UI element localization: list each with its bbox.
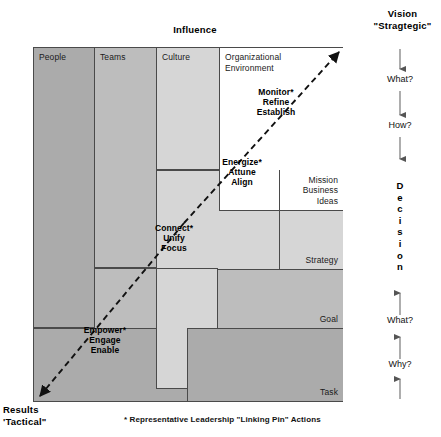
decision-letter-i1: i bbox=[370, 215, 430, 227]
row-label-goal: Goal bbox=[320, 314, 338, 325]
column-label-org-environment: Organizational Environment bbox=[225, 52, 281, 73]
linking-pin-monitor: Monitor* Refine Establish bbox=[240, 87, 312, 117]
diagram-canvas: Influence Vision "Stragtegic" Results 'T… bbox=[0, 0, 441, 437]
footnote-text: * Representative Leadership "Linking Pin… bbox=[124, 415, 424, 424]
row-label-task: Task bbox=[320, 387, 338, 398]
vision-caption: Vision "Stragtegic" bbox=[364, 8, 441, 31]
leadership-matrix: People Teams Culture Organizational Envi… bbox=[33, 47, 341, 400]
row-mission: Mission Business Ideas bbox=[279, 170, 343, 211]
decision-letter-d: D bbox=[370, 180, 430, 192]
vision-subtitle: "Stragtegic" bbox=[364, 20, 441, 31]
decision-letter-s: s bbox=[370, 226, 430, 238]
row-label-mission: Mission Business Ideas bbox=[280, 175, 338, 207]
linking-pin-empower: Empower* Engage Enable bbox=[69, 325, 141, 355]
decision-letter-n: n bbox=[370, 261, 430, 273]
influence-axis-label: Influence bbox=[160, 24, 230, 35]
rail-label-what-top: What? bbox=[370, 74, 430, 84]
column-label-people: People bbox=[39, 52, 66, 63]
row-goal: Goal bbox=[217, 269, 343, 329]
decision-letter-c: c bbox=[370, 203, 430, 215]
column-label-teams: Teams bbox=[100, 52, 126, 63]
row-label-strategy: Strategy bbox=[306, 255, 338, 266]
row-task: Task bbox=[187, 328, 343, 402]
decision-letter-o: o bbox=[370, 250, 430, 262]
results-subtitle: 'Tactical" bbox=[3, 416, 93, 427]
column-label-culture: Culture bbox=[162, 52, 190, 63]
rail-label-how: How? bbox=[370, 120, 430, 130]
linking-pin-connect: Connect* Unify Focus bbox=[138, 223, 210, 253]
results-caption: Results 'Tactical" bbox=[3, 404, 93, 427]
decision-rail: What? How? D e c i s i o n What? Why? bbox=[360, 47, 441, 400]
vision-title: Vision bbox=[364, 8, 441, 19]
rail-label-what-bottom: What? bbox=[370, 315, 430, 325]
row-strategy: Strategy bbox=[279, 210, 343, 270]
cell-people-upper: People bbox=[33, 47, 95, 328]
results-title: Results bbox=[3, 404, 93, 415]
decision-letter-i2: i bbox=[370, 238, 430, 250]
decision-vertical-word: D e c i s i o n bbox=[370, 180, 430, 273]
rail-label-why: Why? bbox=[370, 359, 430, 369]
decision-letter-e: e bbox=[370, 192, 430, 204]
linking-pin-energize: Energize* Attune Align bbox=[206, 157, 278, 187]
cell-culture-upper: Culture bbox=[156, 47, 220, 170]
